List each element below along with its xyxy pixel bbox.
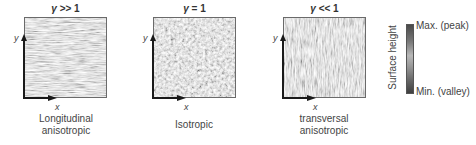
panel-title: γ >> 1 xyxy=(24,3,107,14)
caption-line: transversal xyxy=(269,113,379,125)
panel-title: γ = 1 xyxy=(153,3,236,14)
x-axis-arrow-icon xyxy=(307,95,316,101)
colorbar-gradient xyxy=(406,24,414,94)
y-axis-label: y xyxy=(14,33,19,43)
colorbar-max-label: Max. (peak) xyxy=(416,20,469,31)
y-axis-line xyxy=(23,40,25,99)
x-axis-label: x xyxy=(55,102,60,112)
caption-line: anisotropic xyxy=(11,125,121,137)
surface-texture-image xyxy=(283,17,366,98)
gamma-symbol: γ xyxy=(310,3,316,14)
caption-line: Longitudinal xyxy=(11,113,121,125)
gamma-relation: << 1 xyxy=(319,3,339,14)
panel-caption: Longitudinal anisotropic xyxy=(11,113,121,137)
x-axis-label: x xyxy=(184,102,189,112)
colorbar-title: Surface height xyxy=(387,18,398,98)
caption-line: anisotropic xyxy=(269,125,379,137)
panel-caption: transversal anisotropic xyxy=(269,113,379,137)
y-axis-label: y xyxy=(273,33,278,43)
y-axis-arrow-icon xyxy=(280,34,286,41)
y-axis-label: y xyxy=(143,33,148,43)
y-axis-line xyxy=(152,40,154,99)
surface-texture-image xyxy=(153,17,236,98)
surface-texture-image xyxy=(24,17,107,98)
y-axis-line xyxy=(282,40,284,99)
x-axis-label: x xyxy=(313,102,318,112)
panel-title: γ << 1 xyxy=(283,3,366,14)
y-axis-arrow-icon xyxy=(21,34,27,41)
caption-line: Isotropic xyxy=(139,119,249,131)
x-axis-arrow-icon xyxy=(48,95,57,101)
gamma-symbol: γ xyxy=(51,3,57,14)
gamma-symbol: γ xyxy=(183,3,189,14)
panel-caption: Isotropic xyxy=(139,119,249,131)
x-axis-arrow-icon xyxy=(177,95,186,101)
gamma-relation: >> 1 xyxy=(60,3,80,14)
gamma-relation: = 1 xyxy=(192,3,206,14)
y-axis-arrow-icon xyxy=(150,34,156,41)
colorbar-min-label: Min. (valley) xyxy=(416,86,470,97)
